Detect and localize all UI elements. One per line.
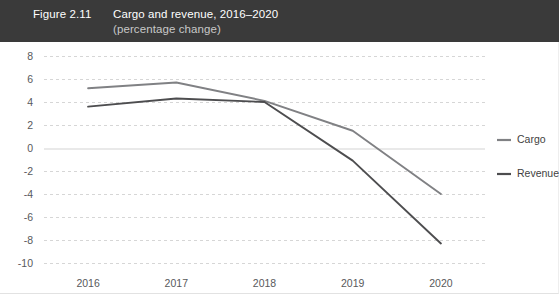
legend-label-cargo: Cargo — [517, 133, 546, 145]
figure-number: Figure 2.11 — [33, 8, 91, 20]
x-axis-tick-label: 2018 — [253, 277, 277, 289]
x-axis-tick-label: 2020 — [429, 277, 453, 289]
y-axis-tick-label: -10 — [18, 257, 33, 269]
series-lines — [88, 82, 441, 243]
y-axis-tick-label: -6 — [24, 211, 33, 223]
legend-label-revenue: Revenue — [517, 167, 559, 179]
chart-legend: CargoRevenue — [497, 133, 559, 179]
x-axis-tick-label: 2017 — [165, 277, 189, 289]
figure-subtitle: (percentage change) — [113, 23, 221, 35]
figure-title-bar: Figure 2.11 Cargo and revenue, 2016–2020… — [0, 0, 559, 42]
y-axis-tick-label: 6 — [27, 73, 33, 85]
y-axis-tick-label: 4 — [27, 96, 33, 108]
y-axis-tick-label: -4 — [24, 188, 33, 200]
figure-container: Figure 2.11 Cargo and revenue, 2016–2020… — [0, 0, 559, 294]
y-axis-tick-label: -2 — [24, 165, 33, 177]
x-axis-tick-labels: 20162017201820192020 — [76, 277, 452, 289]
series-line-cargo — [88, 82, 441, 194]
y-axis-tick-labels: 86420-2-4-6-8-10 — [18, 50, 33, 269]
line-chart: 86420-2-4-6-8-10 20162017201820192020 Ca… — [0, 42, 559, 294]
x-axis-tick-label: 2019 — [341, 277, 365, 289]
y-axis-tick-label: 2 — [27, 119, 33, 131]
y-axis-tick-label: -8 — [24, 234, 33, 246]
plot-area: 86420-2-4-6-8-10 20162017201820192020 Ca… — [0, 42, 559, 294]
y-axis-tick-label: 0 — [27, 142, 33, 154]
x-axis-tick-label: 2016 — [76, 277, 100, 289]
y-axis-tick-label: 8 — [27, 50, 33, 62]
figure-title: Cargo and revenue, 2016–2020 — [113, 8, 278, 20]
